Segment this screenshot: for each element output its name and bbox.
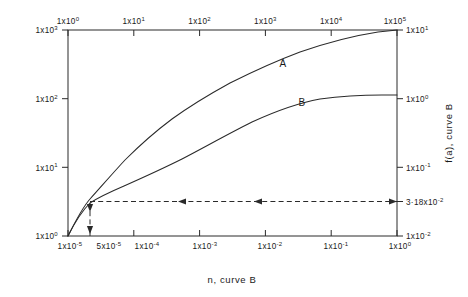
- left-tick-label-3: 1x103: [35, 25, 58, 35]
- bottom-axis-labels: 1x10-5 5x10-5 1x10-4 1x10-3 1x10-2 1x10-…: [58, 241, 412, 251]
- right-tick-label-annotation: 3·18x10-2: [406, 197, 444, 207]
- curve-b-line: [68, 95, 397, 236]
- left-tick-label-1: 1x101: [35, 162, 58, 172]
- right-axis-caption: f(a), curve B: [443, 103, 454, 163]
- top-axis-labels: 1x100 1x101 1x102 1x103 1x104 1x105: [57, 16, 407, 26]
- bottom-tick-label-6: 1x100: [389, 241, 412, 251]
- top-tick-label-0: 1x100: [57, 16, 80, 26]
- curve-a-label: A: [279, 58, 286, 69]
- top-tick-label-3: 1x103: [254, 16, 277, 26]
- figure-container: 1x100 1x101 1x102 1x103 1x104 1x105 1x10…: [0, 0, 468, 297]
- annotation-arrow-down-2: [87, 226, 93, 234]
- left-axis-labels: 1x100 1x101 1x102 1x103: [35, 25, 58, 241]
- annotation-arrow-right: [389, 198, 397, 204]
- top-tick-label-2: 1x102: [188, 16, 211, 26]
- top-tick-label-4: 1x104: [320, 16, 343, 26]
- annotation-arrow-down-1: [87, 204, 93, 212]
- plot-frame: [68, 30, 397, 236]
- bottom-tick-label-3: 1x10-3: [193, 241, 218, 251]
- right-axis-labels: 1x10-2 3·18x10-2 1x10-1 1x100 1x101: [406, 25, 444, 241]
- left-axis-ticks: [62, 30, 68, 236]
- right-axis-ticks: [397, 30, 403, 236]
- bottom-axis-caption: n, curve B: [208, 274, 257, 285]
- bottom-tick-label-2: 1x10-4: [135, 241, 160, 251]
- right-tick-label-3: 1x100: [406, 94, 429, 104]
- top-tick-label-1: 1x101: [122, 16, 145, 26]
- annotation-horizontal-dashed: [90, 198, 397, 204]
- right-tick-label-4: 1x101: [406, 25, 429, 35]
- right-tick-label-2: 1x10-1: [406, 162, 431, 172]
- log-log-chart: 1x100 1x101 1x102 1x103 1x104 1x105 1x10…: [0, 0, 468, 297]
- annotation-vertical-dashed: [87, 203, 93, 234]
- left-tick-label-2: 1x102: [35, 94, 58, 104]
- curve-b-label: B: [298, 97, 305, 108]
- bottom-tick-label-0: 1x10-5: [58, 241, 83, 251]
- right-tick-label-0: 1x10-2: [406, 231, 431, 241]
- left-tick-label-0: 1x100: [35, 231, 58, 241]
- bottom-tick-label-5: 1x10-1: [324, 241, 349, 251]
- bottom-tick-label-1: 5x10-5: [97, 241, 122, 251]
- bottom-axis-ticks: [68, 230, 397, 236]
- bottom-tick-label-4: 1x10-2: [258, 241, 283, 251]
- top-tick-label-5: 1x105: [384, 16, 407, 26]
- annotation-arrow-left-1: [178, 198, 186, 204]
- annotation-arrow-left-2: [254, 198, 262, 204]
- top-axis-ticks: [68, 30, 397, 36]
- curve-a-line: [68, 30, 397, 236]
